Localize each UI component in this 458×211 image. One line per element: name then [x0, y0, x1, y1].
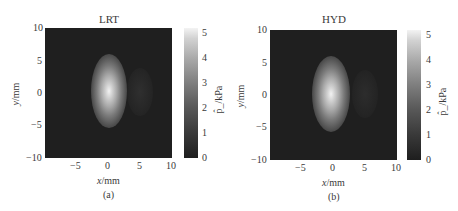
colorbar [407, 30, 421, 160]
x-tick: −5 [70, 161, 81, 171]
y-tick: −5 [31, 120, 42, 130]
y-tick: 5 [37, 56, 42, 66]
pressure-focal-spot [312, 56, 350, 132]
side-lobe [127, 68, 153, 116]
colorbar-tick: 0 [202, 153, 207, 163]
colorbar-tick: 3 [202, 78, 207, 88]
colorbar-tick: 3 [426, 80, 431, 90]
y-tick: 5 [262, 58, 267, 68]
x-tick: 10 [166, 161, 176, 171]
y-tick: 0 [37, 88, 42, 98]
y-axis-label: y/mm [10, 76, 21, 106]
panel-hyd: HYD 10 5 0 −5 −10 −5 0 5 10 x/mm y/mm (b… [229, 0, 458, 211]
panel-caption: (b) [328, 191, 340, 202]
pressure-focal-spot [91, 54, 127, 128]
colorbar-tick: 5 [202, 28, 207, 38]
colorbar-tick: 4 [202, 53, 207, 63]
panel-caption: (a) [103, 189, 114, 200]
colorbar-tick: 2 [426, 105, 431, 115]
colorbar-label: p̂_/kPa [437, 76, 448, 116]
heatmap-plot-area [270, 30, 397, 160]
x-tick: −5 [295, 163, 306, 173]
plot-title: HYD [294, 13, 374, 25]
y-tick: −10 [251, 155, 267, 165]
colorbar-tick: 1 [426, 130, 431, 140]
colorbar [184, 28, 198, 158]
y-tick: −10 [26, 153, 42, 163]
x-tick: 5 [362, 163, 367, 173]
x-tick: 10 [391, 163, 401, 173]
colorbar-tick: 4 [426, 55, 431, 65]
colorbar-label: p̂_/kPa [213, 74, 224, 114]
y-tick: 10 [257, 25, 267, 35]
plot-title: LRT [69, 13, 149, 25]
colorbar-tick: 1 [202, 128, 207, 138]
x-tick: 0 [330, 163, 335, 173]
y-tick: −5 [256, 122, 267, 132]
side-lobe [352, 70, 378, 118]
y-tick: 10 [33, 23, 43, 33]
x-tick: 0 [105, 161, 110, 171]
y-axis-label: y/mm [235, 78, 246, 108]
y-tick: 0 [262, 90, 267, 100]
colorbar-tick: 5 [426, 30, 431, 40]
heatmap-plot-area [45, 28, 172, 158]
x-tick: 5 [137, 161, 142, 171]
colorbar-tick: 0 [426, 155, 431, 165]
colorbar-tick: 2 [202, 103, 207, 113]
x-axis-label: x/mm [97, 175, 120, 186]
panel-lrt: LRT 10 5 0 −5 −10 −5 0 5 10 x/mm y/mm (a… [0, 0, 229, 211]
x-axis-label: x/mm [322, 177, 345, 188]
